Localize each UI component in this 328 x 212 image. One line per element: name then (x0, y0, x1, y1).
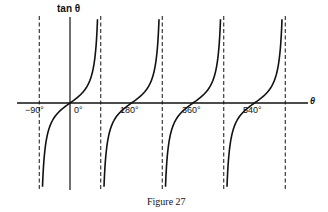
y-axis-label: tan θ (57, 3, 80, 14)
tick-label-180: 180° (120, 105, 139, 115)
figure-caption: Figure 27 (147, 196, 186, 207)
tan-graph (0, 0, 328, 212)
tick-label-0: 0° (74, 105, 83, 115)
tick-label-neg90: −90° (25, 105, 44, 115)
x-axis-label: θ (310, 96, 315, 106)
tick-label-540: 540° (243, 105, 262, 115)
plot-area (17, 16, 308, 190)
tick-label-360: 360° (182, 105, 201, 115)
